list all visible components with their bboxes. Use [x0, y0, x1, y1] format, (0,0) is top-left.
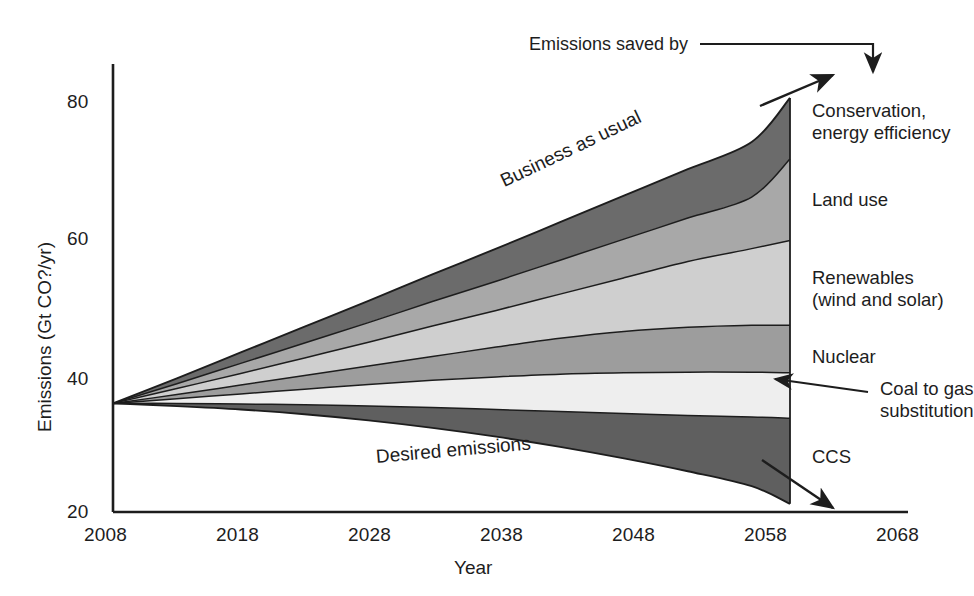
- band-label-nuclear: Nuclear: [812, 346, 876, 368]
- x-tick-2008: 2008: [84, 524, 127, 546]
- band-label-conservation: Conservation,energy efficiency: [812, 100, 951, 144]
- emissions-saved-by-label: Emissions saved by: [529, 34, 688, 55]
- x-tick-2028: 2028: [348, 524, 391, 546]
- x-tick-2048: 2048: [612, 524, 655, 546]
- emissions-saved-by-leader: [700, 44, 873, 72]
- band-label-ccs-line1: CCS: [812, 446, 851, 467]
- band-label-renewables: Renewables(wind and solar): [812, 267, 944, 311]
- x-axis-title: Year: [454, 557, 492, 579]
- x-tick-2038: 2038: [480, 524, 523, 546]
- band-label-ccs: CCS: [812, 446, 851, 468]
- band-label-coal-to-gas-line2: substitution: [880, 400, 974, 421]
- y-tick-60: 60: [67, 228, 89, 250]
- band-label-land-use-line1: Land use: [812, 189, 888, 210]
- y-tick-80: 80: [67, 91, 89, 113]
- y-tick-40: 40: [67, 368, 89, 390]
- y-axis-title: Emissions (Gt CO?/yr): [34, 242, 56, 432]
- x-tick-2068: 2068: [876, 524, 919, 546]
- band-label-land-use: Land use: [812, 189, 888, 211]
- band-label-coal-to-gas: Coal to gassubstitution: [880, 378, 974, 422]
- band-label-nuclear-line1: Nuclear: [812, 346, 876, 367]
- band-label-conservation-line2: energy efficiency: [812, 122, 951, 143]
- band-label-coal-to-gas-line1: Coal to gas: [880, 378, 974, 399]
- band-label-renewables-line1: Renewables: [812, 267, 914, 288]
- y-tick-20: 20: [67, 501, 89, 523]
- band-label-conservation-line1: Conservation,: [812, 100, 926, 121]
- x-tick-2058: 2058: [744, 524, 787, 546]
- x-tick-2018: 2018: [216, 524, 259, 546]
- emissions-wedge-chart: Emissions (Gt CO?/yr) 80 60 40 20 2008 2…: [0, 0, 974, 596]
- band-label-renewables-line2: (wind and solar): [812, 289, 944, 310]
